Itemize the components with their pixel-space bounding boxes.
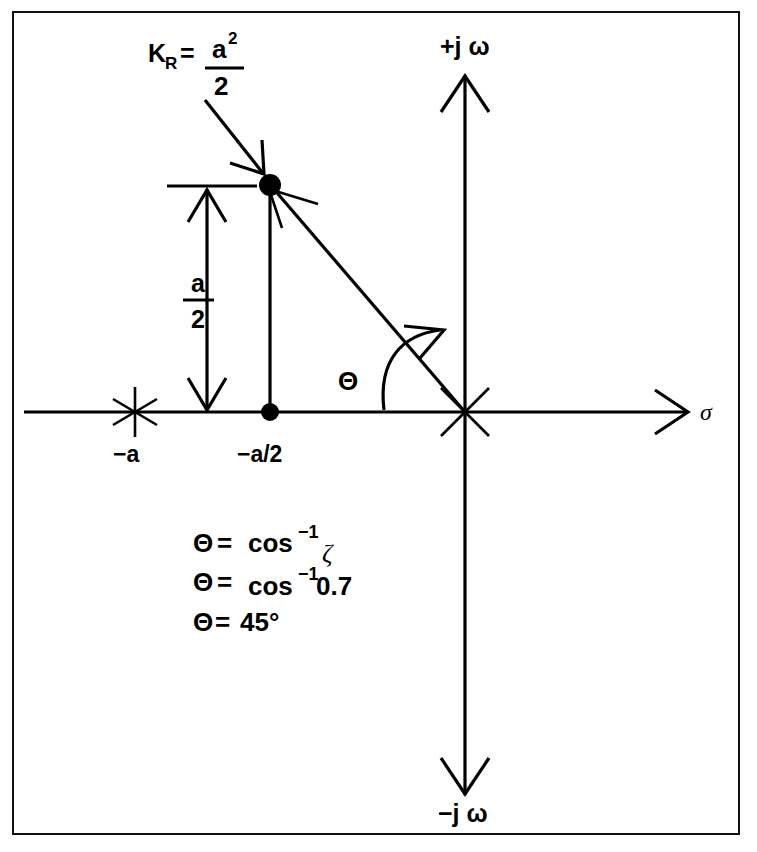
equation-2-equals: = [217, 567, 232, 597]
equation-3-lhs: Θ [193, 607, 213, 637]
imaginary-axis-positive-label: +j ω [440, 32, 490, 60]
equation-1-equals: = [217, 528, 232, 558]
gain-label-subscript: R [165, 54, 177, 73]
equation-2-argument: 0.7 [316, 571, 352, 601]
equation-1-lhs: Θ [193, 528, 213, 558]
equation-line-2: Θ = cos −1 0.7 [193, 564, 352, 601]
gain-denominator: 2 [214, 71, 228, 101]
pole-label-minus-a-over-2: −a/2 [237, 441, 282, 467]
real-axis-label: σ [700, 399, 713, 425]
dimension-denominator: 2 [191, 305, 205, 333]
s-plane-diagram: .ln{stroke:#000;stroke-width:3.2;stroke-… [0, 0, 757, 852]
gain-numerator: a [212, 34, 227, 64]
equation-1-exponent: −1 [298, 522, 319, 542]
equation-block: Θ = cos −1 ζ Θ = cos −1 0.7 Θ = 45° [193, 522, 352, 637]
gain-callout: K R = a 2 2 [148, 29, 244, 101]
equation-3-equals: = [215, 607, 230, 637]
equation-2-lhs: Θ [193, 567, 213, 597]
equation-1-function: cos [248, 528, 293, 558]
equation-line-3: Θ = 45° [193, 607, 279, 637]
gain-callout-arrow [205, 100, 264, 174]
theta-angle-arc [383, 326, 444, 410]
real-axis [24, 390, 688, 434]
gain-numerator-exponent: 2 [228, 29, 237, 48]
equation-1-argument: ζ [322, 539, 334, 568]
dimension-numerator: a [191, 269, 206, 297]
pole-label-minus-a: −a [113, 441, 139, 467]
damping-ray-line [272, 187, 465, 412]
equation-3-argument: 45° [240, 607, 279, 637]
gain-label-equals: = [180, 39, 195, 67]
theta-symbol-label: Θ [338, 366, 358, 396]
closed-loop-pole-marker [259, 174, 318, 228]
equation-line-1: Θ = cos −1 ζ [193, 522, 334, 568]
gain-label-lead: K [148, 39, 166, 67]
imaginary-axis [441, 75, 489, 795]
equation-2-function: cos [248, 571, 293, 601]
dimension-label-a-over-2: a 2 [183, 269, 214, 333]
imaginary-axis-negative-label: −j ω [438, 799, 488, 827]
